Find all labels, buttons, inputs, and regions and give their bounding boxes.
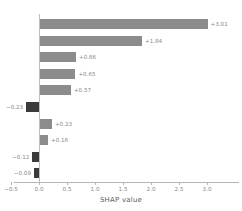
- x-axis-tick: [179, 182, 180, 185]
- bar-value-label: +0.23: [55, 119, 72, 129]
- bar: [26, 102, 39, 112]
- x-axis-tick: [39, 182, 40, 185]
- bar-value-label: −0.12: [12, 152, 29, 162]
- zero-reference-line: [39, 14, 40, 182]
- x-axis-tick-label: 3.0: [203, 186, 212, 192]
- x-axis-tick: [123, 182, 124, 185]
- bar: [39, 119, 52, 129]
- bar-value-label: +1.84: [145, 36, 162, 46]
- bar-value-label: +0.16: [51, 135, 68, 145]
- x-axis-tick-label: −0.5: [4, 186, 18, 192]
- x-axis-tick-label: 0.0: [35, 186, 44, 192]
- bar-value-label: +0.65: [78, 69, 95, 79]
- x-axis-tick: [67, 182, 68, 185]
- x-axis-tick: [95, 182, 96, 185]
- x-axis-title: SHAP value: [0, 196, 242, 204]
- x-axis-tick-label: 1.5: [119, 186, 128, 192]
- x-axis-tick: [151, 182, 152, 185]
- bar-value-label: +3.01: [211, 19, 228, 29]
- x-axis-line: [14, 182, 239, 183]
- bar: [39, 36, 142, 46]
- bar: [39, 19, 208, 29]
- plot-area: +3.01+1.84+0.66+0.65+0.57−0.23+0.23+0.16…: [0, 0, 242, 185]
- x-axis-tick-label: 2.5: [175, 186, 184, 192]
- x-axis-tick-label: 2.0: [147, 186, 156, 192]
- bar: [39, 85, 71, 95]
- x-axis-tick-label: 1.0: [91, 186, 100, 192]
- bar: [39, 69, 75, 79]
- bar-value-label: +0.66: [79, 52, 96, 62]
- bar: [32, 152, 39, 162]
- bar: [39, 135, 48, 145]
- x-axis-tick-label: 0.5: [63, 186, 72, 192]
- x-axis-tick: [207, 182, 208, 185]
- bar-value-label: −0.23: [6, 102, 23, 112]
- bar-value-label: −0.09: [14, 168, 31, 178]
- bar: [39, 52, 76, 62]
- bar-value-label: +0.57: [74, 85, 91, 95]
- x-axis-tick: [11, 182, 12, 185]
- shap-bar-chart-figure: +3.01+1.84+0.66+0.65+0.57−0.23+0.23+0.16…: [0, 0, 242, 211]
